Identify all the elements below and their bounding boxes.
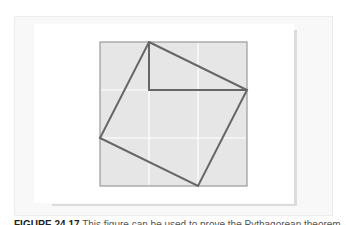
figure-page: FIGURE 24.17 This figure can be used to … <box>0 0 346 225</box>
pythagorean-diagram <box>0 0 346 225</box>
caption-text: This figure can be used to prove the Pyt… <box>82 219 343 225</box>
figure-caption: FIGURE 24.17 This figure can be used to … <box>14 219 343 225</box>
grid-square <box>100 42 247 186</box>
caption-label: FIGURE 24.17 <box>14 219 80 225</box>
